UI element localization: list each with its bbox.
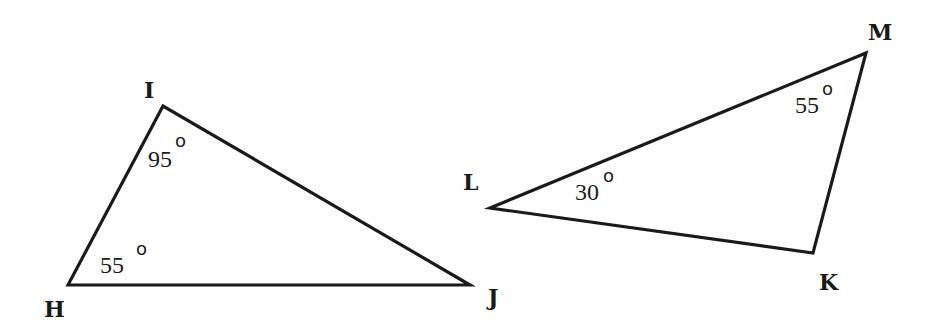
vertex-label-j: J — [486, 284, 498, 310]
degree-symbol-l: o — [603, 165, 614, 186]
vertex-label-k: K — [819, 269, 839, 295]
vertex-label-h: H — [44, 296, 65, 322]
triangle-hij-outline — [68, 106, 470, 285]
angle-label-l: 30 — [575, 179, 599, 205]
degree-symbol-h: o — [136, 238, 147, 259]
degree-symbol-m: o — [822, 78, 833, 99]
angle-label-m: 55 — [795, 92, 819, 118]
triangle-lmk: L M K 30 o 55 o — [463, 19, 892, 295]
vertex-label-i: I — [144, 77, 154, 103]
angle-label-i: 95 — [148, 146, 172, 172]
angle-label-h: 55 — [100, 252, 124, 278]
triangle-lmk-outline — [490, 53, 866, 253]
triangles-diagram: I H J 95 o 55 o L M K 30 o 55 o — [0, 0, 935, 330]
vertex-label-m: M — [868, 19, 892, 45]
degree-symbol-i: o — [175, 130, 186, 151]
triangle-hij: I H J 95 o 55 o — [44, 77, 498, 322]
vertex-label-l: L — [463, 169, 478, 195]
